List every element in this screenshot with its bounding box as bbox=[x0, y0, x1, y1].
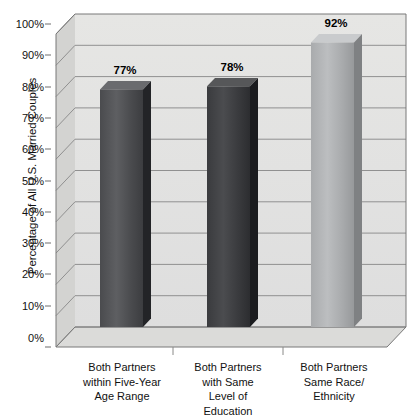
bar-value-label-1: 77% bbox=[113, 64, 136, 76]
y-tick-label: 40% bbox=[22, 206, 44, 218]
bar-2-side bbox=[250, 78, 258, 327]
bar-1-front bbox=[100, 89, 143, 327]
bar-2-front bbox=[207, 86, 250, 327]
y-tick-label: 70% bbox=[22, 112, 44, 124]
y-tick-label: 0% bbox=[28, 332, 44, 344]
bar-value-label-2: 78% bbox=[220, 61, 243, 73]
bar-2-top bbox=[207, 78, 258, 86]
category-label-3: Both Partners Same Race/ Ethnicity bbox=[274, 360, 394, 404]
y-axis-tick-labels: 100% 90% 80% 70% 60% 50% 40% 30% 20% 10%… bbox=[0, 0, 52, 414]
category-label-2: Both Partners with Same Level of Educati… bbox=[168, 360, 288, 418]
y-tick-label: 30% bbox=[22, 237, 44, 249]
bar-column-2 bbox=[207, 78, 258, 327]
y-tick-label: 10% bbox=[22, 300, 44, 312]
bar-column-3 bbox=[311, 34, 362, 327]
y-tick-label: 60% bbox=[22, 143, 44, 155]
bar-column-1 bbox=[100, 81, 151, 327]
y-tick-label: 100% bbox=[16, 18, 44, 30]
chart-floor bbox=[56, 327, 406, 347]
bar-value-label-3: 92% bbox=[324, 17, 347, 29]
bar-1-side bbox=[143, 81, 151, 327]
bar-3-side bbox=[354, 34, 362, 327]
bar-3-front bbox=[311, 43, 354, 328]
y-tick-label: 50% bbox=[22, 175, 44, 187]
category-ticks bbox=[173, 347, 283, 355]
bar-3-top bbox=[311, 34, 362, 42]
bar-1-top bbox=[100, 81, 151, 89]
y-tick-label: 20% bbox=[22, 268, 44, 280]
y-tick-label: 80% bbox=[22, 81, 44, 93]
y-tick-label: 90% bbox=[22, 49, 44, 61]
